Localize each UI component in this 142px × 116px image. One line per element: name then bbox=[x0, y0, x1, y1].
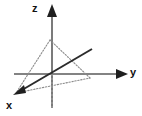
z-axis bbox=[47, 4, 57, 108]
z-axis-arrowhead bbox=[47, 4, 57, 17]
triangle-shape bbox=[16, 40, 90, 93]
z-axis-label: z bbox=[32, 3, 38, 14]
y-axis-arrowhead bbox=[116, 69, 128, 79]
triangle-edge-base bbox=[16, 78, 90, 93]
figure-canvas: z y x bbox=[0, 0, 142, 116]
triangle-edge-apex-left bbox=[16, 40, 50, 93]
y-axis-label: y bbox=[130, 67, 136, 78]
y-axis bbox=[14, 69, 128, 79]
x-axis-label: x bbox=[6, 100, 12, 111]
triangle-edge-apex-right bbox=[50, 40, 90, 78]
axes-diagram bbox=[0, 0, 142, 116]
x-axis-arrowhead bbox=[13, 85, 26, 95]
